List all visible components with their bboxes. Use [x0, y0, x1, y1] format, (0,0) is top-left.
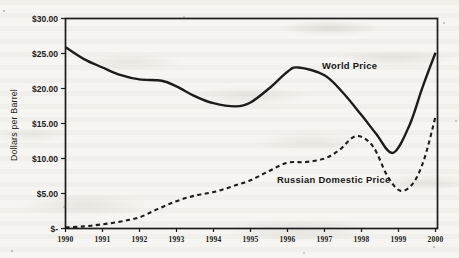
x-tick-label: 1999 — [391, 235, 407, 244]
world-price-line — [66, 47, 436, 153]
y-tick-label: $20.00 — [32, 84, 58, 94]
chart-plot: $30.00$25.00$20.00$15.00$10.00$5.00$-199… — [0, 0, 459, 258]
russian-domestic-price-line — [66, 117, 436, 228]
y-tick-label: $30.00 — [32, 14, 58, 24]
x-tick-label: 1995 — [243, 235, 259, 244]
x-tick-label: 1990 — [58, 235, 74, 244]
x-tick-label: 1991 — [95, 235, 111, 244]
x-tick-label: 2000 — [428, 235, 444, 244]
y-axis-title: Dollars per Barrel — [9, 89, 19, 161]
russian-price-series-label: Russian Domestic Price — [277, 174, 390, 185]
y-tick-label: $15.00 — [32, 119, 58, 129]
y-tick-label: $10.00 — [32, 154, 58, 164]
x-tick-label: 1997 — [317, 235, 333, 244]
scanned-page: $30.00$25.00$20.00$15.00$10.00$5.00$-199… — [0, 0, 459, 258]
y-tick-label: $- — [50, 224, 58, 234]
x-tick-label: 1996 — [280, 235, 296, 244]
x-tick-label: 1998 — [354, 235, 370, 244]
plot-area-border — [66, 19, 438, 229]
x-tick-label: 1993 — [169, 235, 185, 244]
y-tick-label: $25.00 — [32, 49, 58, 59]
x-tick-label: 1992 — [132, 235, 148, 244]
world-price-series-label: World Price — [322, 60, 377, 71]
y-tick-label: $5.00 — [37, 189, 59, 199]
oil-price-chart: $30.00$25.00$20.00$15.00$10.00$5.00$-199… — [0, 0, 459, 258]
x-tick-label: 1994 — [206, 235, 222, 244]
